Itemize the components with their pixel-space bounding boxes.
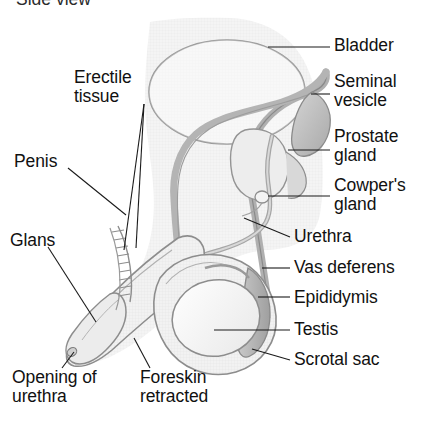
label-scrotal-sac: Scrotal sac	[294, 350, 379, 369]
leader-glans	[48, 247, 96, 322]
label-urethra: Urethra	[294, 227, 352, 246]
label-prostate-line1: Prostate	[334, 127, 398, 146]
label-erectile-tissue-line1: Erectile	[74, 68, 132, 87]
label-seminal-vesicle-line2: vesicle	[334, 91, 387, 110]
label-cowpers-line1: Cowper's	[334, 176, 406, 195]
label-vas-deferens: Vas deferens	[294, 258, 395, 277]
leader-penis	[68, 168, 126, 215]
anatomy-diagram: Side view	[0, 0, 431, 425]
label-epididymis: Epididymis	[294, 288, 378, 307]
label-opening-urethra-line2: urethra	[12, 387, 67, 406]
label-cowpers-line2: gland	[334, 195, 376, 214]
label-erectile-tissue-line2: tissue	[74, 87, 119, 106]
leader-foreskin	[134, 338, 150, 368]
label-opening-urethra-line1: Opening of	[12, 368, 97, 387]
label-seminal-vesicle-line1: Seminal	[334, 72, 397, 91]
label-prostate-line2: gland	[334, 146, 376, 165]
label-bladder: Bladder	[334, 36, 394, 55]
bladder-shape	[149, 40, 305, 144]
label-foreskin-line1: Foreskin	[140, 368, 206, 387]
label-penis: Penis	[14, 152, 57, 171]
leader-erectile-1	[124, 104, 144, 250]
leader-erectile-2	[136, 104, 144, 248]
label-foreskin-line2: retracted	[140, 387, 208, 406]
label-glans: Glans	[10, 231, 55, 250]
label-testis: Testis	[294, 320, 338, 339]
